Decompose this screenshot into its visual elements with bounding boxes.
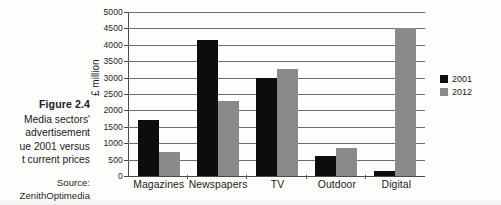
legend-label-2012: 2012 [452,87,472,97]
y-tick-label-1000: 1000 [103,138,123,148]
bar-groups [129,13,425,176]
bar-digital-2001[interactable] [374,171,395,176]
caption-line-2: advertisement [0,126,90,140]
x-axis-categories: MagazinesNewspapersTVOutdoorDigital [129,179,426,190]
figure-source: Source: ZenithOptimedia [0,176,90,203]
legend-item-2012[interactable]: 2012 [440,85,472,98]
y-tick-3000 [124,78,128,79]
bar-newspapers-2012[interactable] [218,101,239,176]
figure-container: Figure 2.4 Media sectors' advertisement … [0,0,501,205]
bar-magazines-2001[interactable] [138,120,159,176]
bar-digital-2012[interactable] [395,28,416,176]
source-label: Source: [0,176,90,190]
y-tick-label-0: 0 [118,171,123,181]
y-tick-3500 [124,61,128,62]
bar-group-magazines [129,13,188,176]
caption-line-1: Media sectors' [0,113,90,127]
y-tick-label-4000: 4000 [103,40,123,50]
y-tick-4500 [124,28,128,29]
y-tick-label-3000: 3000 [103,73,123,83]
source-name: ZenithOptimedia [0,189,90,203]
y-tick-0 [124,176,128,177]
y-tick-5000 [124,12,128,13]
legend-label-2001: 2001 [452,74,472,84]
y-tick-label-1500: 1500 [103,122,123,132]
figure-caption: Figure 2.4 Media sectors' advertisement … [0,98,90,203]
x-axis-label-digital: Digital [367,179,426,190]
y-tick-500 [124,160,128,161]
legend-item-2001[interactable]: 2001 [440,72,472,85]
bar-outdoor-2001[interactable] [315,156,336,176]
y-tick-label-500: 500 [108,155,123,165]
y-tick-label-2500: 2500 [103,89,123,99]
bar-tv-2012[interactable] [277,69,298,176]
y-tick-4000 [124,45,128,46]
x-axis-label-outdoor: Outdoor [307,179,366,190]
bar-newspapers-2001[interactable] [197,40,218,176]
bar-tv-2001[interactable] [256,78,277,176]
legend-swatch-icon-2001 [440,75,448,83]
y-tick-label-4500: 4500 [103,23,123,33]
bar-group-outdoor [307,13,366,176]
bar-outdoor-2012[interactable] [336,148,357,176]
x-axis-label-tv: TV [248,179,307,190]
y-tick-label-5000: 5000 [103,7,123,17]
plot-area: 0500100015002000250030003500400045005000 [128,13,425,177]
x-axis-line [128,176,425,177]
y-tick-label-3500: 3500 [103,56,123,66]
bar-group-newspapers [188,13,247,176]
figure-number: Figure 2.4 [0,98,90,112]
y-tick-2000 [124,110,128,111]
x-axis-label-magazines: Magazines [129,179,188,190]
caption-line-3: ue 2001 versus [0,140,90,154]
chart-legend: 2001 2012 [440,72,472,98]
bar-group-digital [366,13,425,176]
bar-group-tv [247,13,306,176]
y-tick-1500 [124,127,128,128]
y-axis-title: £ million [90,59,101,96]
legend-swatch-icon-2012 [440,88,448,96]
y-tick-1000 [124,143,128,144]
bar-magazines-2012[interactable] [159,152,180,176]
x-axis-label-newspapers: Newspapers [188,179,247,190]
y-tick-label-2000: 2000 [103,105,123,115]
caption-line-4: t current prices [0,153,90,167]
y-tick-2500 [124,94,128,95]
